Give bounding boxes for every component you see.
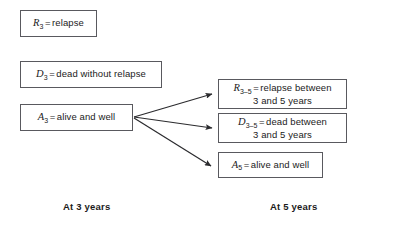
state-box-r3: R3=relapse xyxy=(20,10,97,37)
state-box-a5-text: A5=alive and well xyxy=(232,159,310,172)
state-box-d3: D3=dead without relapse xyxy=(20,61,162,88)
state-symbol-r3: R3 xyxy=(33,17,43,28)
state-box-a3: A3=alive and well xyxy=(20,104,133,131)
state-definition-a3: alive and well xyxy=(57,111,115,122)
state-box-r3-text: R3=relapse xyxy=(33,17,84,30)
equals-sign: = xyxy=(48,111,57,122)
arrow-a3-to-a5 xyxy=(134,118,211,166)
equals-sign: = xyxy=(43,17,52,28)
equals-sign: = xyxy=(242,159,251,170)
state-box-r3-5-line2: 3 and 5 years xyxy=(233,95,331,107)
state-box-a3-text: A3=alive and well xyxy=(38,111,116,124)
state-definition-r3: relapse xyxy=(52,17,84,28)
state-symbol-a5: A5 xyxy=(232,159,242,170)
state-symbol-d3: D3 xyxy=(36,68,48,79)
equals-sign: = xyxy=(48,68,57,79)
state-box-r3-5: R3–5=relapse between3 and 5 years xyxy=(218,79,347,109)
arrow-a3-to-r35 xyxy=(134,94,212,117)
state-box-d3-text: D3=dead without relapse xyxy=(36,68,146,81)
equals-sign: = xyxy=(252,82,261,93)
state-box-r3-5-text: R3–5=relapse between3 and 5 years xyxy=(233,82,331,106)
equals-sign: = xyxy=(257,116,266,127)
state-box-a5: A5=alive and well xyxy=(218,152,323,178)
state-symbol-r3-5: R3–5 xyxy=(233,82,251,93)
state-definition-d3-5: dead between xyxy=(266,116,327,127)
arrow-a3-to-d35 xyxy=(134,117,212,128)
state-symbol-a3: A3 xyxy=(38,111,48,122)
state-definition-r3-5: relapse between xyxy=(260,82,331,93)
state-box-r3-5-line1: R3–5=relapse between xyxy=(233,82,331,95)
state-symbol-d3-5: D3–5 xyxy=(238,116,257,127)
state-box-d3-5-line2: 3 and 5 years xyxy=(238,129,327,141)
state-definition-d3: dead without relapse xyxy=(56,68,146,79)
state-box-d3-5-line1: D3–5=dead between xyxy=(238,116,327,129)
state-transition-diagram: R3=relapse D3=dead without relapse A3=al… xyxy=(0,0,395,232)
state-box-d3-5-text: D3–5=dead between3 and 5 years xyxy=(238,116,327,140)
state-box-d3-5: D3–5=dead between3 and 5 years xyxy=(218,113,347,143)
state-definition-a5: alive and well xyxy=(251,159,309,170)
